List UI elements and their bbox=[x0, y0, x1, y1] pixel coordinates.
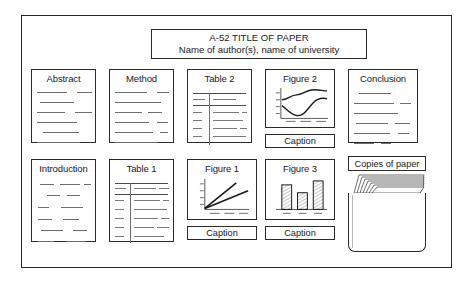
panel-abstract[interactable]: Abstract bbox=[31, 69, 96, 143]
panel-method[interactable]: Method bbox=[109, 69, 174, 143]
panel-introduction-body bbox=[37, 178, 90, 237]
caption-figure1: Caption bbox=[187, 226, 257, 240]
panel-figure3[interactable]: Figure 3 bbox=[265, 159, 335, 220]
panel-introduction-title: Introduction bbox=[32, 160, 95, 177]
panel-abstract-body bbox=[37, 88, 90, 138]
panel-introduction[interactable]: Introduction bbox=[31, 159, 96, 242]
panel-figure3-title: Figure 3 bbox=[266, 160, 334, 177]
panel-table2[interactable]: Table 2 bbox=[187, 69, 252, 143]
panel-figure2[interactable]: Figure 2 bbox=[265, 69, 335, 128]
panel-conclusion-title: Conclusion bbox=[349, 70, 417, 87]
panel-figure1[interactable]: Figure 1 bbox=[187, 159, 257, 220]
panel-table1[interactable]: Table 1 bbox=[109, 159, 174, 242]
panel-table1-body bbox=[115, 178, 168, 237]
panel-figure1-chart bbox=[194, 177, 251, 218]
panel-table2-title: Table 2 bbox=[188, 70, 251, 87]
caption-figure1-label: Caption bbox=[206, 228, 238, 238]
pocket-front bbox=[348, 193, 426, 252]
caption-figure2: Caption bbox=[265, 134, 335, 148]
panel-abstract-title: Abstract bbox=[32, 70, 95, 87]
panel-conclusion-body bbox=[354, 88, 412, 138]
panel-figure2-title: Figure 2 bbox=[266, 70, 334, 87]
panel-figure1-title: Figure 1 bbox=[188, 160, 256, 177]
caption-figure2-label: Caption bbox=[284, 136, 316, 146]
panel-figure3-chart bbox=[272, 177, 329, 218]
poster-authors: Name of author(s), name of university bbox=[179, 44, 340, 56]
poster-title: A-52 TITLE OF PAPER bbox=[209, 32, 308, 44]
caption-figure3: Caption bbox=[265, 226, 335, 240]
panel-figure2-chart bbox=[272, 87, 329, 126]
panel-table1-title: Table 1 bbox=[110, 160, 173, 177]
title-banner: A-52 TITLE OF PAPER Name of author(s), n… bbox=[151, 29, 367, 59]
copies-of-paper-label: Copies of paper bbox=[355, 159, 420, 169]
poster-board: A-52 TITLE OF PAPER Name of author(s), n… bbox=[21, 15, 452, 268]
copies-of-paper-pocket[interactable]: Copies of paper bbox=[348, 156, 426, 252]
copies-of-paper-label-strip: Copies of paper bbox=[348, 156, 426, 171]
caption-figure3-label: Caption bbox=[284, 228, 316, 238]
panel-method-body bbox=[115, 88, 168, 138]
panel-conclusion[interactable]: Conclusion bbox=[348, 69, 418, 143]
panel-table2-body bbox=[193, 88, 246, 138]
panel-method-title: Method bbox=[110, 70, 173, 87]
